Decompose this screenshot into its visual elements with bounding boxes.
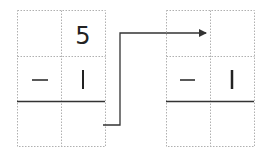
left-grid: [18, 11, 106, 147]
arrow-connector: [103, 33, 206, 125]
right-grid: [167, 11, 255, 147]
subtraction-diagram: 5: [0, 0, 267, 154]
left-top-ones-digit: 5: [75, 22, 90, 50]
